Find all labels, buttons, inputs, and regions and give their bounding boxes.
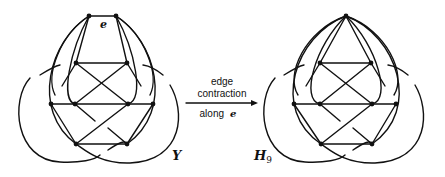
node [344,14,349,19]
node [369,61,374,66]
node [73,102,78,107]
node [292,102,297,107]
graph-y-label: Y [172,148,183,163]
node [49,102,54,107]
node [370,102,375,107]
contraction-arrow: edge contraction along e [186,76,258,119]
node [394,102,399,107]
graph-contraction-figure: e Y edge contraction along e [0,0,445,177]
node [126,102,131,107]
arrow-label-e: e [230,108,236,119]
node [151,102,156,107]
node [87,14,92,19]
arrow-head-icon [251,100,258,106]
node [74,142,79,147]
graph-y: e Y [19,14,183,163]
node [319,142,324,147]
node [114,14,119,19]
node [370,142,375,147]
arrow-label-line1: edge [211,76,234,87]
graph-h9-label: H9 [253,148,272,165]
arrow-label-line2: contraction [198,88,247,99]
node [318,102,323,107]
node [125,61,130,66]
node [318,61,323,66]
node [125,142,130,147]
node [74,61,79,66]
edge-e-label: e [100,18,107,31]
arrow-label-line3: along [200,108,224,119]
graph-h9: H9 [253,14,424,165]
